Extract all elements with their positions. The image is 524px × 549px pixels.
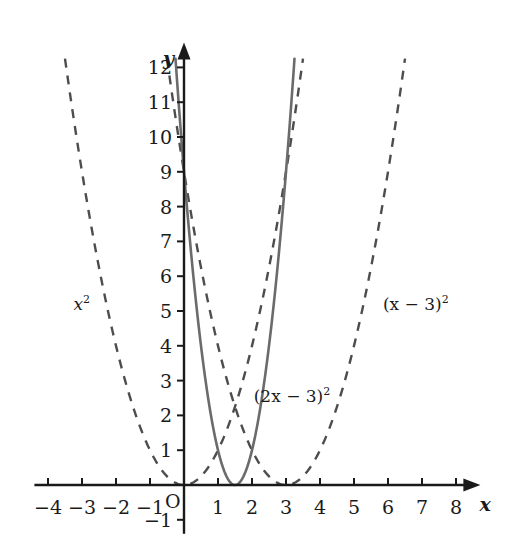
- x-axis-label: x: [479, 495, 490, 514]
- curve-x-minus-3-squared: [167, 59, 405, 485]
- x-tick-label: 4: [314, 498, 326, 517]
- y-tick-label: 4: [0, 336, 172, 355]
- y-tick-label: 11: [0, 93, 172, 112]
- x-axis-arrow-icon: [463, 479, 480, 492]
- y-tick-label: 7: [0, 232, 172, 251]
- y-tick-label: 12: [0, 58, 172, 77]
- x-tick-label: 2: [246, 498, 258, 517]
- curve-label-2x-minus-3-squared: (2x − 3)2: [254, 386, 331, 405]
- y-tick-label: 9: [0, 162, 172, 181]
- x-tick-label: 1: [212, 498, 224, 517]
- x-tick-label: 7: [416, 498, 428, 517]
- curve-label-x-squared-base: x: [74, 293, 84, 313]
- origin-label: O: [165, 492, 181, 511]
- y-tick-label: 6: [0, 267, 172, 286]
- curve-label-x-squared: x2: [74, 294, 91, 313]
- y-tick-label: −1: [0, 510, 172, 529]
- curve-label-x-minus-3-exponent: 2: [442, 293, 449, 306]
- x-tick-label: 6: [382, 498, 394, 517]
- x-tick-label: 8: [450, 498, 462, 517]
- y-tick-label: 3: [0, 371, 172, 390]
- x-tick-label: 5: [348, 498, 360, 517]
- curve-label-2x-minus-3-exponent: 2: [323, 385, 330, 398]
- y-tick-label: 1: [0, 441, 172, 460]
- curve-label-x-minus-3-base: (x − 3): [383, 293, 442, 313]
- y-tick-label: 2: [0, 406, 172, 425]
- curve-label-x-minus-3-squared: (x − 3)2: [383, 294, 449, 313]
- y-tick-label: 10: [0, 128, 172, 147]
- curve-label-2x-minus-3-base: (2x − 3): [254, 385, 324, 405]
- y-axis-label: y: [163, 49, 174, 68]
- curve-2x-minus-3-squared: [176, 59, 295, 485]
- y-tick-label: 8: [0, 197, 172, 216]
- curve-label-x-squared-exponent: 2: [83, 293, 90, 306]
- parabola-figure: −4−3−2−112345678−1123456789101112 y x O …: [0, 0, 524, 549]
- y-axis-arrow-icon: [178, 43, 191, 60]
- x-tick-label: 3: [280, 498, 292, 517]
